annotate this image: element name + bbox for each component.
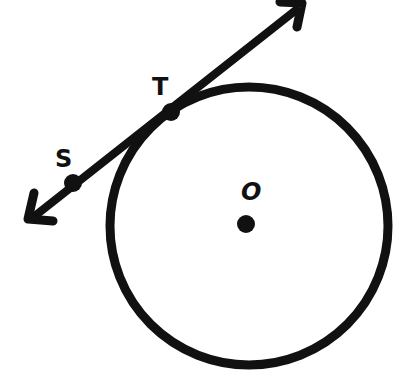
label-s: S — [55, 147, 72, 171]
diagram-canvas: S T O — [0, 0, 412, 391]
point-t — [162, 103, 180, 121]
diagram-svg — [0, 0, 412, 391]
point-o — [237, 215, 255, 233]
label-t: T — [152, 75, 168, 99]
point-s — [64, 174, 82, 192]
label-o: O — [241, 180, 261, 204]
